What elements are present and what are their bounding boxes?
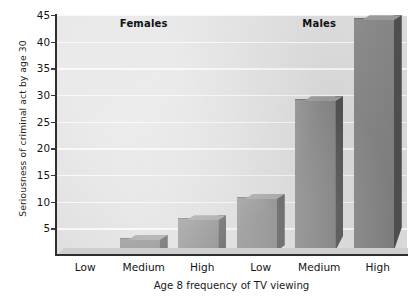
gridline — [56, 15, 407, 16]
bar — [295, 100, 335, 255]
y-tick-label: 25 — [22, 117, 50, 127]
bar-side-face — [218, 215, 226, 251]
x-axis-title: Age 8 frequency of TV viewing — [56, 280, 407, 291]
y-tick-label: 40 — [22, 37, 50, 47]
bar-front-face — [237, 197, 277, 255]
y-tick-label: 15 — [22, 170, 50, 180]
group-header-females: Females — [84, 18, 204, 29]
y-axis-line — [55, 14, 57, 256]
y-tick-label: 45 — [22, 10, 50, 20]
bar — [237, 198, 277, 255]
y-tick-label: 30 — [22, 90, 50, 100]
x-tick-label: High — [338, 261, 415, 273]
y-tick-label: 10 — [22, 197, 50, 207]
bar — [354, 19, 394, 255]
bar-side-face — [335, 96, 343, 251]
bar-front-face — [295, 99, 335, 255]
bar-front-face — [354, 18, 394, 255]
x-axis-line — [55, 254, 408, 256]
y-tick-label: 20 — [22, 143, 50, 153]
bar-chart-figure: Seriousness of criminal act by age 30 51… — [0, 0, 415, 300]
bar-side-face — [394, 15, 402, 251]
bar-side-face — [277, 194, 285, 251]
y-tick-label: 5 — [22, 223, 50, 233]
plot-area — [56, 15, 407, 255]
y-tick-label: 35 — [22, 63, 50, 73]
y-axis-ticks: 51015202530354045 — [22, 0, 50, 300]
group-header-males: Males — [259, 18, 379, 29]
